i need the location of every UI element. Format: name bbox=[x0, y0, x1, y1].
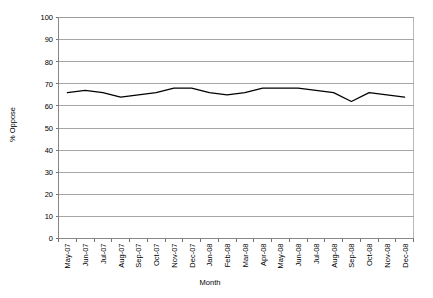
x-tick-label: Jul-07 bbox=[99, 244, 108, 264]
x-tick-label: Aug-07 bbox=[117, 244, 126, 268]
y-tick-label: 100 bbox=[40, 13, 53, 22]
y-tick-label: 90 bbox=[45, 35, 53, 44]
x-tick-label: Oct-07 bbox=[152, 244, 161, 267]
x-tick-label: Mar-08 bbox=[241, 244, 250, 268]
y-tick-label: 10 bbox=[45, 212, 53, 221]
x-tick-label: Aug-08 bbox=[330, 244, 339, 268]
x-tick-label: May-07 bbox=[63, 244, 72, 269]
x-tick-label: Jun-07 bbox=[81, 244, 90, 267]
plot-area: 0102030405060708090100 May-07Jun-07Jul-0… bbox=[0, 0, 433, 298]
x-tick-label: Sep-07 bbox=[134, 244, 143, 268]
y-tick-label: 50 bbox=[45, 124, 53, 133]
y-tick-label: 60 bbox=[45, 102, 53, 111]
x-tick-label: Sep-08 bbox=[347, 244, 356, 268]
x-tick-label: May-08 bbox=[276, 244, 285, 269]
y-tick-labels-group: 0102030405060708090100 bbox=[40, 13, 53, 243]
x-tick-label: Dec-07 bbox=[188, 244, 197, 268]
y-tick-label: 80 bbox=[45, 58, 53, 67]
line-chart: % Oppose Month 0102030405060708090100 Ma… bbox=[0, 0, 433, 298]
x-tick-label: Oct-08 bbox=[365, 244, 374, 267]
y-tick-label: 70 bbox=[45, 80, 53, 89]
x-tick-label: Jan-08 bbox=[205, 244, 214, 267]
x-tick-label: Dec-08 bbox=[401, 244, 410, 268]
y-tick-label: 20 bbox=[45, 190, 53, 199]
x-tick-label: Jun-08 bbox=[294, 244, 303, 267]
y-tick-label: 30 bbox=[45, 168, 53, 177]
x-tick-marks-group bbox=[59, 239, 414, 242]
data-series-line bbox=[67, 88, 404, 101]
x-tick-label: Nov-07 bbox=[170, 244, 179, 268]
y-tick-label: 0 bbox=[49, 234, 53, 243]
x-tick-labels-group: May-07Jun-07Jul-07Aug-07Sep-07Oct-07Nov-… bbox=[63, 244, 409, 269]
x-tick-label: Jul-08 bbox=[312, 244, 321, 264]
y-tick-label: 40 bbox=[45, 146, 53, 155]
x-tick-label: Apr-08 bbox=[259, 244, 268, 267]
gridlines-group bbox=[56, 18, 414, 239]
x-tick-label: Nov-08 bbox=[383, 244, 392, 268]
x-tick-label: Feb-08 bbox=[223, 244, 232, 268]
